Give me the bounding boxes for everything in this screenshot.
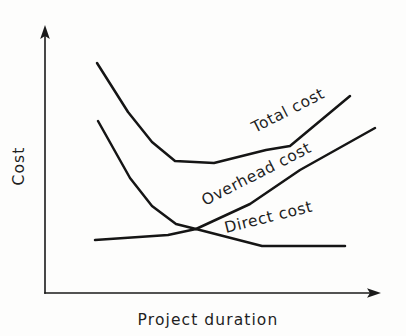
axes-group xyxy=(40,25,381,298)
y-axis-title: Cost xyxy=(10,147,28,186)
direct-cost-curve xyxy=(95,229,345,246)
chart-canvas: Total cost Overhead cost Direct cost Cos… xyxy=(0,0,406,336)
x-axis-title: Project duration xyxy=(138,311,279,329)
direct-cost-label: Direct cost xyxy=(223,198,315,237)
total-cost-label: Total cost xyxy=(248,85,328,137)
total-cost-curve xyxy=(97,63,350,163)
curve-labels-group: Total cost Overhead cost Direct cost xyxy=(199,85,328,237)
cost-duration-chart: Total cost Overhead cost Direct cost Cos… xyxy=(0,0,406,336)
